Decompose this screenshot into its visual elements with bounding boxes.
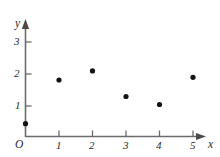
- scatter-plot-figure: 3 2 1 1 2 3 4 5 y x O: [0, 0, 220, 157]
- data-point: [56, 77, 61, 82]
- origin-label: O: [15, 139, 23, 151]
- y-axis-label: y: [15, 18, 20, 30]
- data-point: [190, 75, 195, 80]
- data-point: [23, 121, 28, 126]
- x-axis-arrowhead: [196, 133, 206, 140]
- x-axis-label: x: [208, 139, 213, 151]
- data-point: [157, 102, 162, 107]
- y-tick-label-1: 1: [15, 100, 21, 111]
- x-tick-label-1: 1: [56, 140, 62, 151]
- x-tick-label-2: 2: [89, 140, 95, 151]
- y-axis-arrowhead: [22, 19, 29, 29]
- x-tick-label-5: 5: [190, 140, 196, 151]
- y-tick-label-2: 2: [14, 68, 20, 79]
- data-point: [123, 94, 128, 99]
- plot-canvas: [0, 0, 220, 157]
- data-point: [90, 68, 95, 73]
- x-tick-label-3: 3: [123, 140, 129, 151]
- x-tick-label-4: 4: [156, 140, 162, 151]
- y-tick-label-3: 3: [14, 36, 20, 47]
